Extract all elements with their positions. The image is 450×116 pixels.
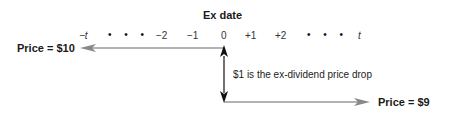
- tick-zero: 0: [221, 30, 227, 41]
- tick-minus-t: −t: [79, 30, 88, 41]
- price-before-label: Price = $10: [17, 42, 75, 54]
- tick-plus-2: +2: [275, 30, 286, 41]
- tick-t: t: [358, 30, 361, 41]
- tick-plus-1: +1: [245, 30, 256, 41]
- price-after-label: Price = $9: [378, 96, 430, 108]
- price-drop-note: $1 is the ex-dividend price drop: [233, 69, 372, 80]
- tick-ellipsis-right: • • •: [307, 29, 348, 40]
- up-arrow-head-icon: [220, 45, 228, 57]
- tick-minus-1: −1: [187, 30, 198, 41]
- ex-date-title: Ex date: [203, 9, 242, 21]
- tick-ellipsis-left: • • •: [108, 29, 149, 40]
- tick-minus-2: −2: [156, 30, 167, 41]
